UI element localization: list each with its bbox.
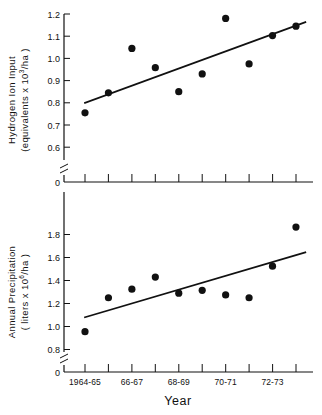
x-tick-labels: 1964-6566-6768-6970-7172-73 [69,377,284,387]
y-tick-label: 0.8 [47,98,60,108]
data-point [245,60,252,67]
panel-annual-precipitation: Annual Precipitation ( liters x 106/ha )… [6,192,313,408]
y-tick-label: 1.1 [47,32,60,42]
x-ticks-bottom [85,364,296,372]
figure-two-panel-scatter: Hydrogen Ion Input (equivalents x 103/ha… [0,0,322,415]
y-axis-title-line2: ( liters x 106/ha ) [18,254,30,331]
data-point [105,294,112,301]
y-tick-label: 1.2 [47,299,60,309]
y-tick-label: 0.7 [47,121,60,131]
data-point [81,109,88,116]
trendline-precipitation [85,252,305,317]
data-point [128,286,135,293]
x-tick-label: 70-71 [215,377,237,387]
x-tick-label: 1964-65 [69,377,101,387]
y-tick-label: 1.0 [47,322,60,332]
y-tick-label: 1.6 [47,253,60,263]
y-axis-title-hydrogen: Hydrogen Ion Input (equivalents x 103/ha… [6,48,30,152]
data-point [199,70,206,77]
data-point [269,32,276,39]
data-point [222,15,229,22]
y-ticks-hydrogen: 1.2 1.1 1.0 0.9 0.8 0.7 0.6 0 [47,10,70,188]
y-axis-title-line2: (equivalents x 103/ha ) [18,48,30,152]
panel-hydrogen-ion-input: Hydrogen Ion Input (equivalents x 103/ha… [6,10,313,188]
data-point [269,263,276,270]
y-tick-label: 1.0 [47,54,60,64]
y-tick-label: 1.2 [47,10,60,20]
x-tick-label: 72-73 [261,377,283,387]
y-axis-title-line1: Annual Precipitation [6,246,17,339]
data-point [175,290,182,297]
data-point [152,273,159,280]
y-tick-label: 0.8 [47,345,60,355]
y-tick-label-zero: 0 [55,178,60,188]
y-tick-label: 1.8 [47,230,60,240]
data-point [105,89,112,96]
data-point [128,45,135,52]
data-point [222,291,229,298]
data-points-hydrogen [81,15,299,117]
data-points-precipitation [81,223,299,335]
x-tick-label: 68-69 [168,377,190,387]
data-point [292,223,299,230]
y-tick-label-zero: 0 [55,368,60,378]
data-point [245,294,252,301]
data-point [199,287,206,294]
data-point [152,64,159,71]
y-tick-label: 0.9 [47,76,60,86]
x-tick-label: 66-67 [121,377,143,387]
x-axis-title: Year [164,394,192,408]
data-point [81,328,88,335]
y-tick-label: 1.4 [47,276,60,286]
y-axis-title-line1: Hydrogen Ion Input [6,56,17,144]
y-ticks-precipitation: 1.8 1.6 1.4 1.2 1.0 0.8 0 [47,230,70,378]
x-ticks-top [85,174,296,182]
data-point [175,88,182,95]
axis-break-marker-top [60,164,68,173]
y-tick-label: 0.6 [47,143,60,153]
data-point [292,23,299,30]
axis-break-marker-bottom [60,354,68,363]
y-axis-title-precipitation: Annual Precipitation ( liters x 106/ha ) [6,246,30,339]
